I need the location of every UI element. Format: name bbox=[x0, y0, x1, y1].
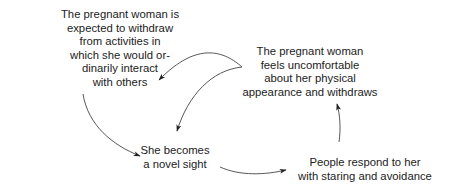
arrow-people-to-feels bbox=[337, 104, 340, 142]
arrows-layer bbox=[0, 0, 455, 194]
arrow-to-expected-withdraw bbox=[159, 53, 242, 80]
arrow-novel-sight-to-people bbox=[220, 167, 286, 174]
arrow-expected-to-novel-sight bbox=[83, 94, 140, 156]
arrow-to-novel-sight-from-feels bbox=[177, 67, 242, 131]
